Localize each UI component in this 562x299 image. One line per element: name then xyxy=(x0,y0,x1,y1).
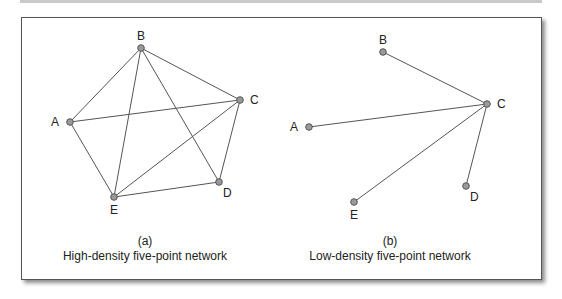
edge-a-A-E xyxy=(70,122,114,197)
panel-label-b: (b) xyxy=(270,234,510,249)
caption-text-a: High-density five-point network xyxy=(25,249,265,264)
node-label-a-E: E xyxy=(110,203,118,217)
edge-b-D-C xyxy=(466,104,487,186)
panel-label-a: (a) xyxy=(25,234,265,249)
caption-a: (a) High-density five-point network xyxy=(25,234,265,264)
network-b: ABCDE xyxy=(290,33,506,222)
node-a-C xyxy=(237,97,244,104)
node-label-b-C: C xyxy=(497,97,506,111)
node-label-a-A: A xyxy=(51,115,59,129)
edge-a-A-B xyxy=(70,48,141,122)
node-label-b-D: D xyxy=(470,190,479,204)
node-label-b-B: B xyxy=(379,33,387,47)
node-b-C xyxy=(484,101,491,108)
node-label-b-E: E xyxy=(350,208,358,222)
node-a-A xyxy=(67,119,74,126)
network-a: ABCDE xyxy=(51,29,259,217)
node-label-a-D: D xyxy=(223,186,232,200)
edge-a-B-E xyxy=(114,48,141,197)
node-label-a-B: B xyxy=(137,29,145,43)
node-b-B xyxy=(380,49,387,56)
node-a-D xyxy=(216,179,223,186)
edge-a-C-D xyxy=(219,100,240,182)
node-a-E xyxy=(111,194,118,201)
edge-b-B-C xyxy=(383,52,487,104)
caption-b: (b) Low-density five-point network xyxy=(270,234,510,264)
node-label-b-A: A xyxy=(290,120,298,134)
node-b-A xyxy=(306,124,313,131)
node-label-a-C: C xyxy=(250,93,259,107)
caption-text-b: Low-density five-point network xyxy=(270,249,510,264)
edge-a-A-C xyxy=(70,100,240,122)
node-a-B xyxy=(138,45,145,52)
node-b-D xyxy=(463,183,470,190)
node-b-E xyxy=(351,199,358,206)
